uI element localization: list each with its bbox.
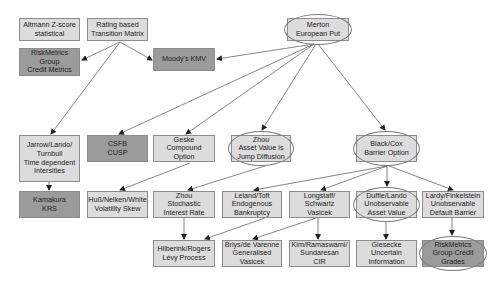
node-label: RiskMetrics Group Credit Metrics: [27, 49, 71, 75]
node-label: Kamakura KRS: [33, 196, 66, 213]
node-blackcox: Black/Cox Barrier Option: [356, 135, 417, 162]
node-longstaff: Longstaff/ Schwartz Vasicek: [289, 191, 350, 218]
node-huss: Huß/Nelken/White Volatility Skew: [87, 191, 148, 218]
edge-rating-to-riskmetrics_cm: [82, 42, 120, 60]
node-kim: Kim/Ramaswami/ Sundaresan CIR: [289, 240, 350, 267]
edge-geske-to-huss: [120, 163, 190, 190]
node-label: Duffie/Lando Unobservable Asset Value: [364, 192, 408, 218]
node-geske: Geske Compound Option: [153, 135, 215, 162]
node-label: Briys/de Varenne Generalised Vasicek: [225, 241, 280, 267]
node-label: Merton European Put: [296, 21, 340, 38]
node-kamakura: Kamakura KRS: [19, 191, 80, 218]
edge-leland-to-hilberink: [205, 218, 265, 239]
node-label: RiskMetrics Group Credit Grades: [432, 241, 473, 267]
edge-blackcox-to-longstaff: [321, 166, 387, 190]
edge-blackcox-to-lardy: [389, 166, 453, 190]
node-briys: Briys/de Varenne Generalised Vasicek: [222, 240, 282, 267]
node-riskmetrics_grades: RiskMetrics Group Credit Grades: [422, 240, 484, 267]
node-label: Kim/Ramaswami/ Sundaresan CIR: [292, 241, 348, 267]
node-label: Hilberink/Rogers Lévy Process: [157, 245, 210, 262]
edge-longstaff-to-briys: [253, 218, 316, 239]
node-label: Longstaff/ Schwartz Vasicek: [304, 192, 335, 218]
edge-merton-to-zhou_jump: [262, 44, 316, 130]
edge-merton-to-moodys: [217, 44, 314, 59]
node-csfb: CSFB CUSP: [87, 135, 148, 162]
node-moodys: Moody's KMV: [153, 48, 215, 71]
node-zhou_jump: Zhou Asset Value is Jump Diffusion: [231, 135, 291, 162]
node-label: Zhou Asset Value is Jump Diffusion: [237, 136, 284, 162]
node-label: Lardy/Finkelstein Unobservable Default B…: [426, 192, 480, 218]
node-rating: Rating based Transition Matrix: [87, 18, 148, 41]
node-duffie: Duffie/Lando Unobservable Asset Value: [356, 191, 417, 218]
node-label: Geske Compound Option: [166, 136, 201, 162]
node-giesecke: Giesecke Uncertain Information: [356, 240, 417, 267]
node-label: Rating based Transition Matrix: [91, 21, 144, 38]
node-merton: Merton European Put: [287, 18, 349, 41]
edge-blackcox-to-leland: [254, 166, 387, 190]
node-lardy: Lardy/Finkelstein Unobservable Default B…: [422, 191, 484, 218]
node-jarrow: Jarrow/Lando/ Turnbull Time dependent In…: [19, 135, 80, 182]
node-label: Altmann Z-score statistical: [23, 21, 76, 38]
model-tree-diagram: Altmann Z-score statisticalRating based …: [0, 0, 499, 288]
node-leland: Leland/Toft Endogenous Bankruptcy: [222, 191, 282, 218]
edge-rating-to-moodys: [120, 42, 152, 60]
edge-merton-to-blackcox: [318, 44, 385, 130]
edge-zhou_jump-to-zhou_stoch: [188, 166, 265, 190]
node-altmann: Altmann Z-score statistical: [19, 18, 80, 41]
node-label: Huß/Nelken/White Volatility Skew: [88, 196, 146, 213]
node-label: Black/Cox Barrier Option: [364, 140, 409, 157]
node-label: Moody's KMV: [162, 55, 206, 64]
node-label: Leland/Toft Endogenous Bankruptcy: [232, 192, 272, 218]
node-hilberink: Hilberink/Rogers Lévy Process: [153, 240, 215, 267]
node-label: Zhou Stochastic Interest Rate: [163, 192, 204, 218]
node-label: Jarrow/Lando/ Turnbull Time dependent In…: [24, 141, 76, 175]
node-riskmetrics_cm: RiskMetrics Group Credit Metrics: [19, 48, 80, 76]
node-label: Giesecke Uncertain Information: [369, 241, 405, 267]
node-zhou_stoch: Zhou Stochastic Interest Rate: [153, 191, 215, 218]
node-label: CSFB CUSP: [108, 140, 128, 157]
